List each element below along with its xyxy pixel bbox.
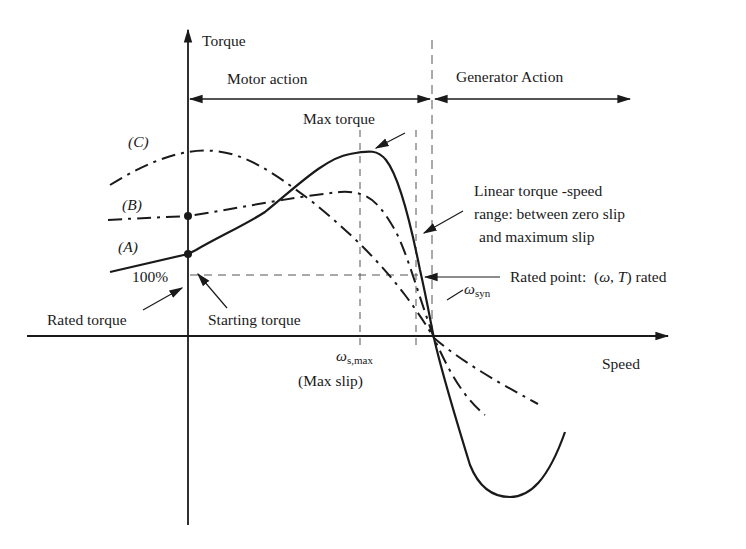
rated-torque-label: Rated torque bbox=[47, 311, 127, 329]
motor-action-label: Motor action bbox=[227, 70, 308, 88]
linear-range-pointer bbox=[424, 211, 463, 233]
curve-c-label: (C) bbox=[128, 133, 149, 151]
omega-syn-subscript: syn bbox=[475, 287, 490, 299]
curve-b-start-dot bbox=[184, 212, 192, 220]
max-torque-label: Max torque bbox=[303, 110, 375, 128]
starting-torque-label: Starting torque bbox=[208, 311, 301, 329]
curve-a-label: (A) bbox=[118, 238, 138, 256]
linear-range-label-line3: and maximum slip bbox=[479, 228, 594, 246]
rated-point-comma: , bbox=[610, 268, 618, 285]
linear-range-label-line2: range: between zero slip bbox=[474, 205, 625, 223]
curve-b bbox=[108, 192, 485, 415]
omega-smax-subscript: s,max bbox=[347, 354, 373, 366]
rated-point-label: Rated point: (ω, T) rated bbox=[510, 268, 666, 286]
rated-torque-pointer bbox=[143, 288, 182, 310]
omega-smax-symbol: ω bbox=[336, 347, 347, 364]
curve-a bbox=[110, 152, 565, 497]
speed-axis-label: Speed bbox=[602, 355, 640, 373]
linear-range-label-line1: Linear torque -speed bbox=[474, 182, 602, 200]
rated-point-suffix: ) rated bbox=[626, 268, 666, 285]
omega-syn-label: ωsyn bbox=[464, 280, 490, 302]
rated-point-prefix: Rated point: bbox=[510, 268, 586, 285]
rated-point-omega: ω bbox=[599, 268, 610, 285]
starting-torque-pointer bbox=[198, 274, 227, 308]
omega-syn-symbol: ω bbox=[464, 280, 475, 297]
max-slip-label: (Max slip) bbox=[298, 372, 363, 390]
torque-axis-label: Torque bbox=[202, 32, 246, 50]
omega-smax-label: ωs,max bbox=[336, 347, 373, 369]
generator-action-label: Generator Action bbox=[456, 68, 563, 86]
hundred-percent-label: 100% bbox=[132, 268, 168, 286]
curve-b-label: (B) bbox=[122, 196, 142, 214]
curve-a-start-dot bbox=[184, 250, 192, 258]
max-torque-pointer bbox=[376, 133, 405, 148]
omega-syn-pointer bbox=[447, 290, 463, 300]
